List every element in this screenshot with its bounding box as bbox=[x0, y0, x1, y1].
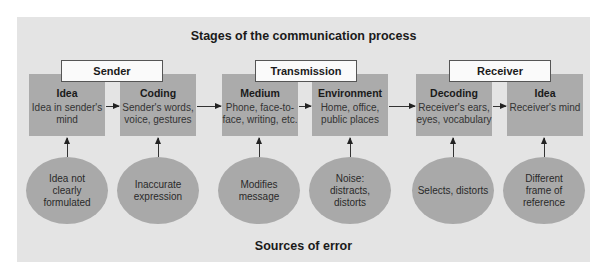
error-source-text: Inaccurate expression bbox=[130, 179, 186, 203]
arrow-right-icon bbox=[389, 106, 415, 107]
arrow-up-icon bbox=[259, 138, 260, 157]
stage-description: Receiver's ears, eyes, vocabulary bbox=[416, 102, 492, 126]
stage-environment: Environment Home, office, public places bbox=[312, 74, 388, 136]
arrow-up-icon bbox=[158, 138, 159, 157]
error-source-text: Noise: distracts, distorts bbox=[326, 173, 374, 209]
arrow-right-icon bbox=[299, 106, 311, 107]
stage-receiver-idea: Idea Receiver's mind bbox=[507, 74, 583, 136]
stage-description: Phone, face-to-face, writing, etc. bbox=[222, 102, 298, 126]
error-source-ellipse: Noise: distracts, distorts bbox=[309, 157, 391, 224]
stage-name: Medium bbox=[222, 87, 298, 100]
error-source-ellipse: Selects, distorts bbox=[412, 157, 494, 224]
error-source-ellipse: Idea not clearly formulated bbox=[26, 157, 108, 224]
arrow-right-icon bbox=[106, 106, 119, 107]
arrow-right-icon bbox=[493, 106, 506, 107]
stage-description: Home, office, public places bbox=[312, 102, 388, 126]
stage-decoding: Decoding Receiver's ears, eyes, vocabula… bbox=[416, 74, 492, 136]
arrow-up-icon bbox=[544, 138, 545, 157]
stage-description: Receiver's mind bbox=[507, 102, 583, 114]
error-source-text: Modifies message bbox=[235, 179, 283, 203]
error-source-text: Different frame of reference bbox=[516, 173, 572, 209]
stage-name: Coding bbox=[120, 87, 196, 100]
arrow-up-icon bbox=[453, 138, 454, 157]
diagram-title: Stages of the communication process bbox=[17, 29, 590, 43]
stage-name: Environment bbox=[312, 87, 388, 100]
group-sender: Sender bbox=[61, 60, 163, 82]
error-source-ellipse: Modifies message bbox=[218, 157, 300, 224]
group-receiver: Receiver bbox=[449, 60, 551, 82]
arrow-up-icon bbox=[67, 138, 68, 157]
stage-coding: Coding Sender's words, voice, gestures bbox=[120, 74, 196, 136]
error-source-ellipse: Different frame of reference bbox=[503, 157, 585, 224]
stage-name: Decoding bbox=[416, 87, 492, 100]
stage-medium: Medium Phone, face-to-face, writing, etc… bbox=[222, 74, 298, 136]
error-source-ellipse: Inaccurate expression bbox=[117, 157, 199, 224]
diagram-panel: Stages of the communication process Send… bbox=[17, 17, 590, 262]
error-source-text: Selects, distorts bbox=[416, 185, 490, 197]
stage-name: Idea bbox=[507, 87, 583, 100]
stage-name: Idea bbox=[29, 87, 105, 100]
group-transmission: Transmission bbox=[255, 60, 357, 82]
arrow-right-icon bbox=[197, 106, 221, 107]
diagram-footer: Sources of error bbox=[17, 239, 590, 253]
error-source-text: Idea not clearly formulated bbox=[43, 173, 91, 209]
stage-sender-idea: Idea Idea in sender's mind bbox=[29, 74, 105, 136]
stage-description: Idea in sender's mind bbox=[29, 102, 105, 126]
stage-description: Sender's words, voice, gestures bbox=[120, 102, 196, 126]
arrow-up-icon bbox=[350, 138, 351, 157]
